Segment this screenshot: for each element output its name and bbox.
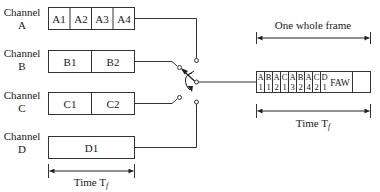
svg-text:Channel: Channel <box>4 89 41 101</box>
svg-text:A4: A4 <box>117 13 131 25</box>
svg-text:Channel: Channel <box>4 47 41 59</box>
left-time-arrow: Time Tf <box>49 164 135 190</box>
svg-text:1: 1 <box>322 82 326 92</box>
svg-text:2: 2 <box>298 82 302 92</box>
channel-d-label: Channel D <box>4 130 41 155</box>
channel-c-box: C1 C2 <box>49 93 135 115</box>
svg-text:C2: C2 <box>107 98 120 110</box>
svg-text:C1: C1 <box>64 98 77 110</box>
svg-text:2: 2 <box>274 82 278 92</box>
svg-text:3: 3 <box>290 82 294 92</box>
svg-text:D: D <box>321 72 327 82</box>
svg-text:B1: B1 <box>64 56 77 68</box>
tdm-diagram: Channel A Channel B Channel C Channel D … <box>0 0 380 192</box>
svg-text:C: C <box>282 72 288 82</box>
svg-text:A3: A3 <box>95 13 109 25</box>
svg-text:1: 1 <box>266 82 270 92</box>
svg-text:Time Tf: Time Tf <box>74 176 110 190</box>
svg-text:B: B <box>298 72 304 82</box>
svg-text:Time Tf: Time Tf <box>296 117 332 131</box>
svg-text:A: A <box>273 72 280 82</box>
multiplexed-frame: A 1 B 1 A 2 C 1 A 3 B 2 A 4 C 2 D 1 FAW <box>257 72 371 93</box>
one-whole-frame-arrow: One whole frame <box>257 19 371 44</box>
svg-text:B: B <box>266 72 272 82</box>
svg-text:B: B <box>18 60 25 72</box>
faw-slot: FAW <box>330 78 350 88</box>
svg-text:C: C <box>18 102 25 114</box>
svg-text:D: D <box>18 143 26 155</box>
channel-d-box: D1 <box>49 137 135 159</box>
svg-text:A1: A1 <box>52 13 65 25</box>
svg-text:2: 2 <box>314 82 318 92</box>
channel-c-label: Channel C <box>4 89 41 114</box>
svg-text:Channel: Channel <box>4 6 41 18</box>
channel-b-box: B1 B2 <box>49 51 135 73</box>
svg-text:B2: B2 <box>107 56 120 68</box>
svg-text:A: A <box>305 72 312 82</box>
channel-a-box: A1 A2 A3 A4 <box>49 8 135 30</box>
channel-a-label: Channel A <box>4 6 41 31</box>
svg-text:D1: D1 <box>85 142 98 154</box>
svg-text:One whole frame: One whole frame <box>275 19 351 31</box>
svg-text:C: C <box>314 72 320 82</box>
channel-b-label: Channel B <box>4 47 41 72</box>
svg-text:A: A <box>257 72 264 82</box>
svg-text:Channel: Channel <box>4 130 41 142</box>
svg-text:1: 1 <box>258 82 262 92</box>
right-time-arrow: Time Tf <box>257 104 371 131</box>
svg-text:A: A <box>18 19 26 31</box>
commutator-switch <box>135 19 257 148</box>
svg-text:A2: A2 <box>74 13 87 25</box>
svg-text:1: 1 <box>282 82 286 92</box>
svg-text:A: A <box>289 72 296 82</box>
